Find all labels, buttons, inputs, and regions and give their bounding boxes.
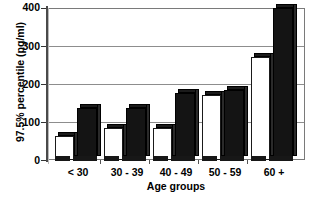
plinth-seg [269, 156, 293, 161]
bar-group-40-49 [153, 8, 201, 160]
plinth-seg [73, 156, 97, 161]
bar-40-49-black [175, 93, 195, 160]
y-tick-label-0: 0 [0, 155, 40, 165]
plinth-seg [104, 156, 119, 161]
x-tick-label-60plus: 60 + [239, 166, 309, 178]
bar-group-30-39 [104, 8, 152, 160]
bar-side [146, 104, 150, 156]
bar-chart: 97.5% percentile (pg/ml) 400 300 200 100… [0, 0, 317, 206]
bar-face [273, 8, 293, 160]
bar-side [97, 104, 101, 156]
bar-50-59-white [202, 95, 221, 160]
y-tick-label-100: 100 [0, 117, 40, 127]
bar-60plus-black [273, 8, 293, 160]
baseline-plinth [47, 156, 305, 161]
y-tick-label-400: 400 [0, 2, 40, 12]
y-tick-label-300: 300 [0, 41, 40, 51]
plinth-seg [153, 156, 168, 161]
bar-side [195, 89, 199, 156]
bar-face [175, 93, 195, 160]
bar-face [126, 108, 146, 160]
bar-lt30-black [77, 108, 97, 160]
bar-face [251, 57, 270, 160]
bar-group-50-59 [202, 8, 250, 160]
plinth-seg [171, 156, 195, 161]
bar-30-39-black [126, 108, 146, 160]
x-tick [100, 160, 101, 164]
bars-layer [47, 8, 305, 160]
x-tick [247, 160, 248, 164]
bar-face [202, 95, 221, 160]
y-tick-label-200: 200 [0, 79, 40, 89]
plinth-seg [55, 156, 70, 161]
plinth-seg [251, 156, 266, 161]
plinth-seg [202, 156, 217, 161]
x-tick [198, 160, 199, 164]
plinth-seg [122, 156, 146, 161]
x-tick [149, 160, 150, 164]
bar-face [224, 90, 244, 160]
bar-side [293, 4, 297, 156]
bar-group-lt30 [55, 8, 103, 160]
bar-side [244, 86, 248, 156]
bar-face [77, 108, 97, 160]
bar-group-60plus [251, 8, 299, 160]
bar-50-59-black [224, 90, 244, 160]
bar-60plus-white [251, 57, 270, 160]
x-axis-title: Age groups [47, 180, 305, 192]
plinth-seg [220, 156, 244, 161]
